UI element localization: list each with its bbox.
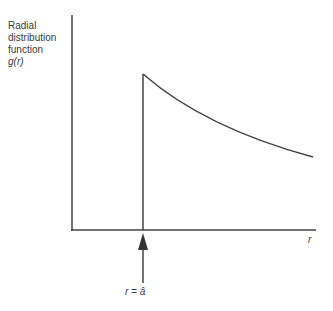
marker-label: r = â	[125, 286, 145, 297]
rdf-diagram	[0, 0, 333, 311]
decay-curve	[143, 74, 313, 157]
arrow-head-icon	[138, 233, 148, 250]
x-axis-label: r	[308, 234, 311, 245]
